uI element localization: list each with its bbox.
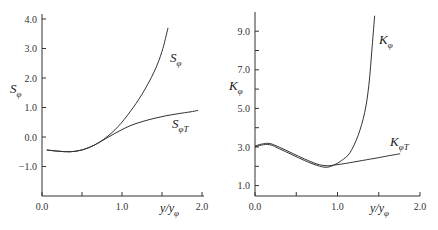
right-chart-k-phi: 0.01.02.09.07.05.03.01.0 Kφ y/yφ Kφ KφT: [228, 12, 426, 218]
y-tick-label: 9.0: [238, 26, 251, 37]
curve-k-t: [255, 143, 400, 165]
y-tick-label: 1.0: [238, 180, 251, 191]
x-tick-label: 1.0: [331, 201, 344, 212]
curve-s-: [47, 28, 168, 152]
left-curve-label-s-phi-t: SφT: [172, 116, 189, 134]
y-tick-label: −1.0: [19, 161, 37, 172]
y-tick-label: 4.0: [25, 14, 38, 25]
x-tick-label: 0.0: [249, 201, 262, 212]
left-curves: [47, 28, 198, 152]
y-tick-label: 7.0: [238, 64, 251, 75]
x-tick-label: 2.0: [196, 201, 209, 212]
left-x-axis-label: y/yφ: [159, 201, 179, 218]
y-tick-label: 3.0: [238, 142, 251, 153]
left-chart-s-phi: 0.01.02.04.03.02.01.00.0−1.0 Sφ y/yφ Sφ …: [10, 14, 208, 219]
x-tick-label: 1.0: [116, 201, 129, 212]
x-tick-label: 0.0: [36, 201, 49, 212]
right-y-axis-label: Kφ: [228, 78, 243, 96]
right-curve-label-k-phi-t: KφT: [389, 134, 410, 152]
left-y-axis-label: Sφ: [10, 81, 22, 99]
y-tick-label: 0.0: [25, 132, 38, 143]
right-curve-label-k-phi: Kφ: [378, 32, 393, 50]
y-tick-label: 1.0: [25, 102, 38, 113]
right-axes: 0.01.02.09.07.05.03.01.0: [238, 12, 427, 212]
right-x-axis-label: y/yφ: [369, 201, 389, 218]
y-tick-label: 5.0: [238, 103, 251, 114]
left-curve-label-s-phi: Sφ: [170, 50, 182, 68]
left-axes: 0.01.02.04.03.02.01.00.0−1.0: [19, 14, 208, 213]
y-tick-label: 3.0: [25, 43, 38, 54]
x-tick-label: 2.0: [414, 201, 427, 212]
figure: 0.01.02.04.03.02.01.00.0−1.0 Sφ y/yφ Sφ …: [0, 0, 438, 230]
y-tick-label: 2.0: [25, 73, 38, 84]
